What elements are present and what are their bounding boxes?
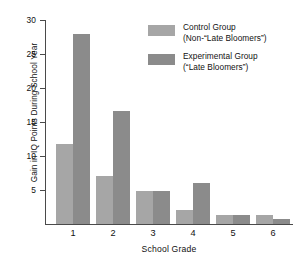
legend-label-line2-2: (“Late Bloomers”): [183, 62, 301, 73]
legend-label-line1-2: Experimental Group: [183, 51, 301, 62]
y-axis-tick-label-5: 5: [10, 185, 36, 195]
bar-control-grade-3: [136, 191, 153, 224]
bar-control-grade-5: [216, 215, 233, 224]
bar-control-grade-1: [56, 144, 73, 224]
x-axis-tick-label-1: 1: [58, 228, 88, 238]
legend-entry-1: Control Group(Non-“Late Bloomers”): [148, 24, 300, 46]
bar-group-grade-1: [56, 20, 90, 224]
y-axis-tick-label-15: 15: [10, 117, 36, 127]
y-axis-tick-label-25: 25: [10, 49, 36, 59]
y-axis-tick-label-10: 10: [10, 151, 36, 161]
bar-experimental-grade-3: [153, 191, 170, 224]
bar-group-grade-2: [96, 20, 130, 224]
legend-label-2: Experimental Group(“Late Bloomers”): [183, 51, 301, 72]
y-axis-title: Gain in IQ Points During School Year: [30, 13, 39, 213]
x-axis-tick-label-6: 6: [258, 228, 288, 238]
x-axis-tick-label-4: 4: [178, 228, 208, 238]
bar-control-grade-2: [96, 176, 113, 224]
x-axis-line: [45, 224, 293, 225]
bar-experimental-grade-5: [233, 215, 250, 224]
x-axis-tick-label-2: 2: [98, 228, 128, 238]
y-axis-tick-label-20: 20: [10, 83, 36, 93]
bar-control-grade-6: [256, 215, 273, 224]
legend-label-line1-1: Control Group: [183, 22, 301, 33]
legend-swatch-2: [148, 54, 175, 65]
x-axis-tick-label-5: 5: [218, 228, 248, 238]
legend-entry-2: Experimental Group(“Late Bloomers”): [148, 53, 300, 75]
bar-chart: Gain in IQ Points During School Year 510…: [0, 0, 301, 271]
bar-experimental-grade-1: [73, 34, 90, 224]
y-axis-tick-label-30: 30: [10, 15, 36, 25]
x-axis-title: School Grade: [45, 244, 293, 254]
bar-experimental-grade-4: [193, 183, 210, 224]
x-axis-tick-label-3: 3: [138, 228, 168, 238]
legend-label-1: Control Group(Non-“Late Bloomers”): [183, 22, 301, 43]
bar-experimental-grade-6: [273, 219, 290, 224]
legend-swatch-1: [148, 25, 175, 36]
bar-experimental-grade-2: [113, 111, 130, 224]
bar-control-grade-4: [176, 210, 193, 224]
chart-legend: Control Group(Non-“Late Bloomers”)Experi…: [148, 24, 300, 82]
legend-label-line2-1: (Non-“Late Bloomers”): [183, 33, 301, 44]
